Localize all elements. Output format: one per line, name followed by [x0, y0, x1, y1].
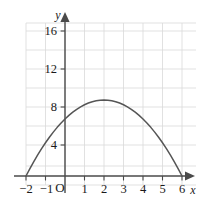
- x-tick-label-4: 4: [140, 182, 147, 196]
- y-tick-label-4: 4: [51, 138, 58, 152]
- x-tick-label-2: 2: [101, 182, 107, 196]
- x-axis-label: x: [189, 183, 196, 197]
- x-tick-label-6: 6: [179, 182, 185, 196]
- plot-background: [0, 0, 201, 212]
- parabola-plot: 4 8 12 16 −2 −1 1 2 3 4 5 6 O y x: [0, 0, 201, 212]
- x-tick-label-3: 3: [120, 182, 126, 196]
- origin-label: O: [55, 180, 64, 195]
- y-tick-label-16: 16: [45, 24, 58, 38]
- x-tick-label-5: 5: [159, 182, 165, 196]
- x-tick-label-1: 1: [81, 182, 87, 196]
- x-tick-label-minus1: −1: [40, 182, 53, 196]
- y-tick-label-8: 8: [51, 100, 57, 114]
- y-tick-label-12: 12: [45, 62, 58, 76]
- x-tick-label-minus2: −2: [19, 182, 32, 196]
- y-axis-label: y: [54, 8, 61, 22]
- graph-figure: 4 8 12 16 −2 −1 1 2 3 4 5 6 O y x: [0, 0, 201, 212]
